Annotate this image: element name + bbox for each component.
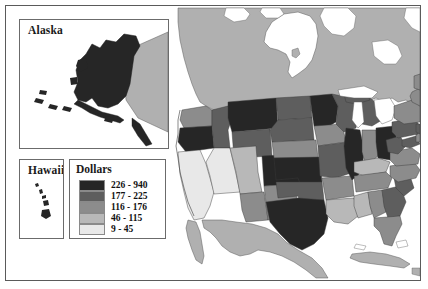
legend-label: 116 - 176 — [111, 202, 147, 213]
legend[interactable]: Dollars 226 - 940 177 - 225 116 - 176 46… — [69, 159, 166, 239]
legend-row[interactable]: 46 - 115 — [79, 213, 147, 224]
legend-swatch — [79, 202, 105, 213]
state-north-dakota — [276, 96, 312, 120]
alaska-inset-map — [20, 20, 168, 148]
legend-label: 46 - 115 — [111, 213, 142, 224]
legend-swatch — [79, 213, 105, 224]
state-south-dakota — [270, 118, 314, 142]
legend-swatch — [79, 180, 105, 191]
alaska-inset-title: Alaska — [28, 24, 63, 36]
legend-row[interactable]: 226 - 940 — [79, 180, 147, 191]
state-arkansas — [322, 176, 354, 200]
legend-swatch — [79, 191, 105, 202]
state-minnesota — [310, 94, 338, 128]
state-oregon — [178, 126, 214, 152]
island-maui — [43, 200, 49, 206]
north-america-choropleth — [166, 6, 420, 280]
state-new-jersey — [416, 124, 420, 134]
legend-row[interactable]: 177 - 225 — [79, 191, 147, 202]
main-map[interactable] — [166, 6, 420, 280]
state-nebraska — [272, 140, 318, 158]
figure-frame: Alaska Hawaii — [5, 5, 421, 281]
state-maine — [414, 74, 420, 90]
state-montana — [228, 98, 278, 132]
hawaii-inset-title: Hawaii — [28, 164, 64, 176]
legend-items: 226 - 940 177 - 225 116 - 176 46 - 115 9… — [79, 180, 147, 235]
bering-island-2 — [70, 77, 78, 85]
legend-row[interactable]: 9 - 45 — [79, 224, 147, 235]
legend-row[interactable]: 116 - 176 — [79, 202, 147, 213]
legend-label: 177 - 225 — [111, 191, 147, 202]
legend-title: Dollars — [76, 163, 112, 175]
legend-swatch — [79, 224, 105, 235]
legend-label: 9 - 45 — [111, 224, 133, 235]
alaska-inset[interactable]: Alaska — [19, 19, 169, 149]
legend-label: 226 - 940 — [111, 180, 147, 191]
hawaii-inset[interactable]: Hawaii — [19, 159, 64, 239]
